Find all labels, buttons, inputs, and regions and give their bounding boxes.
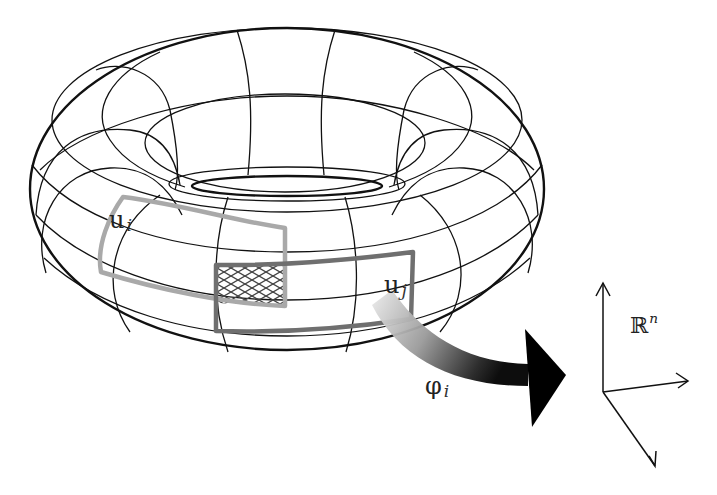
- torus-meridian-back-left: [237, 30, 251, 175]
- torus-meridian-br2: [389, 52, 472, 187]
- chart-u-j-label: uj: [384, 273, 407, 299]
- torus-top-ring: [52, 28, 522, 212]
- map-phi-label-subscript: i: [444, 381, 450, 401]
- chart-u-i-label: ui: [109, 208, 132, 234]
- torus-meridian-back-right: [321, 30, 335, 175]
- map-arrow-head: [525, 329, 566, 427]
- torus-meridian-bl2: [102, 52, 185, 187]
- euclidean-space-label-base: ℝ: [630, 313, 648, 338]
- euclidean-space-label: ℝn: [630, 312, 658, 337]
- chart-u-j-label-base: u: [384, 271, 399, 299]
- map-arrow-body: [372, 290, 528, 386]
- axis-diagonal: [603, 392, 655, 466]
- chart-u-i-label-base: u: [109, 206, 124, 234]
- map-phi-label-base: φ: [425, 372, 442, 400]
- axis-horizontal: [603, 381, 688, 392]
- torus-latitude-back: [40, 96, 534, 170]
- chart-u-j-label-subscript: j: [401, 280, 406, 300]
- axis-diagonal-arrowhead: [649, 451, 656, 466]
- axis-horizontal-arrowhead: [676, 373, 688, 388]
- euclidean-axes: [596, 283, 688, 466]
- torus-meridian-fr2: [394, 129, 538, 215]
- diagram-canvas: [0, 0, 717, 495]
- manifold-diagram: ui uj φi ℝn: [0, 0, 717, 495]
- chart-u-i-label-subscript: i: [126, 215, 132, 235]
- euclidean-space-label-superscript: n: [649, 310, 658, 326]
- torus-hole-rim: [145, 94, 425, 192]
- map-phi-i-label: φi: [425, 374, 449, 400]
